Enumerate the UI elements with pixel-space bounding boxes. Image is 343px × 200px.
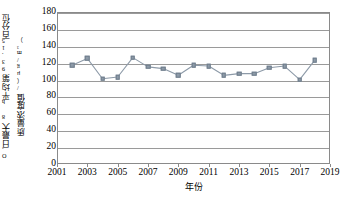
y-axis-title-char: 最 (2, 130, 10, 139)
y-axis-title-char: 1 (2, 45, 5, 52)
x-axis-tick-label: 2011 (192, 167, 226, 177)
data-point-marker (252, 71, 257, 76)
y-axis-title-char: m (17, 50, 22, 57)
x-axis-tick-label: 2009 (161, 167, 195, 177)
data-point-marker (176, 73, 181, 78)
data-point-marker (282, 64, 287, 69)
y-axis-title-char: 3 (2, 59, 5, 66)
y-axis-tick-label: 20 (32, 142, 56, 152)
data-point-marker (70, 63, 75, 68)
data-point-marker (267, 65, 272, 70)
y-axis-tick-label: 160 (32, 24, 56, 34)
y-axis-title-char: 5 (2, 38, 5, 45)
y-axis-title-char: g (17, 64, 20, 71)
data-point-marker (191, 63, 196, 68)
y-axis-title-char: / (17, 85, 19, 92)
data-point-marker (85, 56, 90, 61)
data-point-marker (100, 76, 105, 81)
y-axis-title: O₃日最大8 h平均第93.15百分位 质量浓度值/（μg/m³） (0, 0, 34, 172)
y-axis-title-char: 位 (2, 12, 10, 21)
x-axis-tick-label: 2005 (101, 167, 135, 177)
y-axis-title-char: O (2, 153, 6, 160)
data-point-marker (313, 58, 318, 63)
data-point-marker (237, 71, 242, 76)
x-axis-tick-label: 2017 (283, 167, 317, 177)
y-axis-tick-label: 40 (32, 125, 56, 135)
y-axis-title-char: 度 (17, 101, 25, 110)
x-axis-tick-label: 2003 (70, 167, 104, 177)
y-axis-title-char: h (2, 99, 5, 106)
y-axis-title-char: ³ (17, 44, 19, 50)
data-point-marker (206, 64, 211, 69)
x-axis-tick-label: 2001 (40, 167, 74, 177)
y-axis-title-char: 浓 (17, 109, 25, 118)
y-axis-title-char: 平 (2, 90, 10, 99)
data-point-marker (146, 65, 151, 70)
data-point-marker (161, 66, 166, 71)
y-axis-title-char: 百 (2, 29, 10, 38)
x-axis-title: 年份 (57, 180, 330, 193)
y-axis-tick-label: 180 (32, 7, 56, 17)
data-point-marker (131, 55, 136, 60)
y-axis-title-char: 第 (2, 73, 10, 82)
data-point-marker (222, 73, 227, 78)
y-axis-title-char: 均 (2, 81, 10, 90)
y-axis-title-char: 日 (2, 138, 10, 147)
x-axis-tick-label: 2013 (222, 167, 256, 177)
y-axis-title-char: （ (17, 78, 23, 85)
y-axis-title-line-1: O₃日最大8 h平均第93.15百分位 (2, 0, 17, 172)
y-axis-tick-label: 80 (32, 91, 56, 101)
x-axis-tick-label: 2007 (131, 167, 165, 177)
y-axis-tick-label: 140 (32, 41, 56, 51)
y-axis-tick-label: 60 (32, 108, 56, 118)
y-axis-tick-label: 120 (32, 58, 56, 68)
data-point-marker (115, 75, 120, 80)
y-axis-tick-label: 100 (32, 75, 56, 85)
y-axis-title-char: μ (17, 71, 20, 78)
y-axis-title-char: 量 (17, 118, 25, 127)
x-axis-tick-label: 2015 (252, 167, 286, 177)
y-axis-title-char: 8 (2, 114, 5, 121)
x-axis-tick-label: 2019 (313, 167, 343, 177)
y-axis-title-line-2: 质量浓度值/（μg/m³） (17, 0, 32, 172)
ozone-percentile-line-chart: O₃日最大8 h平均第93.15百分位 质量浓度值/（μg/m³） 020406… (0, 0, 343, 200)
series-line (57, 12, 330, 164)
y-axis-title-char: 质 (17, 126, 25, 135)
y-axis-title-char: 大 (2, 121, 10, 130)
y-axis-title-char: / (17, 57, 19, 64)
y-axis-title-char (2, 106, 4, 115)
y-axis-title-char: ） (17, 37, 23, 44)
y-axis-title-char: . (2, 52, 4, 59)
y-axis-title-char: 9 (2, 66, 5, 73)
y-axis-title-char: 分 (2, 21, 10, 30)
y-axis-title-char: 值 (17, 92, 25, 101)
data-point-marker (297, 77, 302, 82)
